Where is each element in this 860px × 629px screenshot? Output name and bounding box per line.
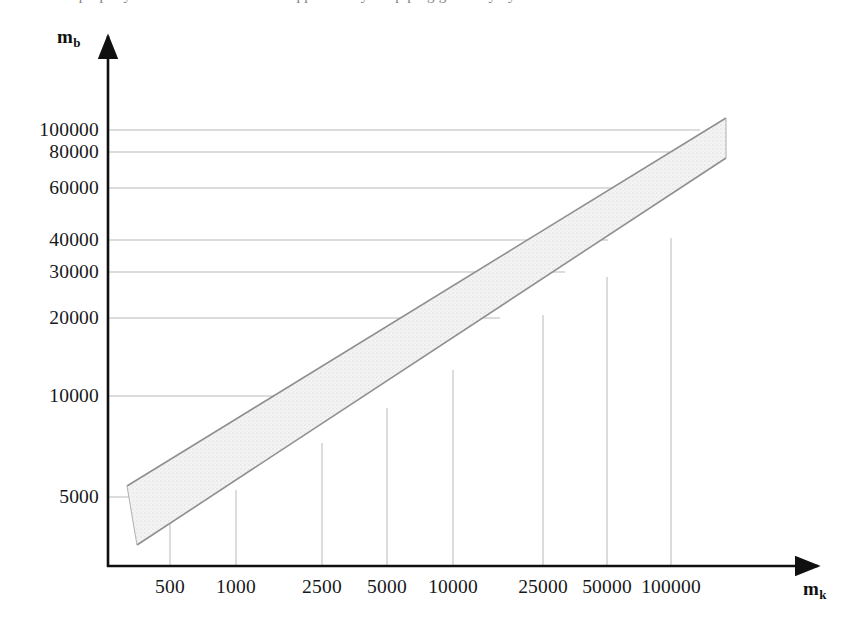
band-fill xyxy=(127,118,726,545)
y-axis-title-subscript: b xyxy=(73,35,81,50)
ytick-label-60000: 60000 xyxy=(49,177,99,199)
y-axis-title-base: m xyxy=(57,26,73,47)
xtick-label-100000: 100000 xyxy=(621,576,721,598)
band-lower-edge xyxy=(137,158,726,545)
x-axis-title: mk xyxy=(803,578,827,603)
ytick-label-40000: 40000 xyxy=(49,229,99,251)
ytick-label-20000: 20000 xyxy=(49,307,99,329)
vertical-gridlines xyxy=(170,238,671,566)
x-axis-title-base: m xyxy=(803,578,819,599)
ytick-label-5000: 5000 xyxy=(59,486,99,508)
data-band-series xyxy=(127,118,726,545)
ytick-label-30000: 30000 xyxy=(49,261,99,283)
xtick-label-1000: 1000 xyxy=(186,576,286,598)
chart-plot-area xyxy=(0,0,860,629)
y-axis-title: mb xyxy=(57,26,81,51)
ytick-label-80000: 80000 xyxy=(49,141,99,163)
band-upper-edge xyxy=(127,118,726,486)
ytick-label-100000: 100000 xyxy=(39,119,99,141)
xtick-label-10000: 10000 xyxy=(403,576,503,598)
x-axis-title-subscript: k xyxy=(819,587,827,602)
chart-page: which is the property of the boiler or a… xyxy=(0,0,860,629)
ytick-label-10000: 10000 xyxy=(49,385,99,407)
